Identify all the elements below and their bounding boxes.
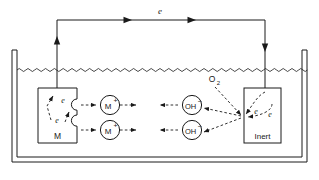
cathode-electron-label-right: e (268, 110, 272, 119)
electrolyte-surface (17, 69, 307, 72)
diagram-canvas: e M e e M + M + OH − OH − (0, 0, 319, 180)
anion-upper-charge: − (197, 98, 201, 105)
anion-upper-label: OH (185, 102, 196, 111)
inert-electrode-label: Inert (254, 132, 271, 141)
cation-upper-charge: + (113, 97, 117, 104)
oxygen-symbol: O (209, 74, 216, 84)
anion-migration-arrows (160, 105, 178, 130)
cation-upper: M + (100, 95, 119, 114)
cathode-electron-label-left: e (254, 107, 258, 116)
oxygen-subscript: 2 (217, 80, 221, 86)
anion-lower: OH − (182, 120, 201, 139)
circuit-electron-label: e (158, 6, 162, 16)
anode-electron-label-upper: e (61, 96, 65, 105)
cation-lower-label: M (105, 127, 112, 136)
anion-upper: OH − (182, 95, 201, 114)
anion-lower-charge: − (197, 123, 201, 130)
cation-lower-charge: + (113, 122, 117, 129)
corrosion-cell-diagram: e M e e M + M + OH − OH − (0, 0, 319, 180)
metal-electrode-label: M (54, 131, 61, 141)
circuit-arrowheads (54, 17, 268, 52)
anode-electron-label-lower: e (55, 116, 59, 125)
anion-lower-label: OH (185, 127, 196, 136)
cathode-reaction-arrows (204, 87, 241, 132)
external-circuit-wire (57, 20, 265, 92)
oxygen-label: O 2 (209, 74, 221, 86)
cation-lower: M + (100, 120, 119, 139)
cation-upper-label: M (105, 102, 112, 111)
